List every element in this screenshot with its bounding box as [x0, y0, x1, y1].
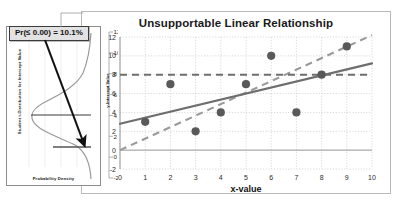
shared-intercept-axis: 12 10 8 6 4 2 0 -2 y-Intercept Value — [96, 26, 118, 186]
shared-axis-title: y-Intercept Value — [105, 51, 110, 131]
intercept-tick-label: -2 — [114, 174, 119, 181]
data-point — [192, 127, 200, 135]
x-axis-tick-labels: 0 1 2 3 4 5 6 7 8 9 10 — [118, 174, 376, 181]
intercept-tick-label: 10 — [114, 49, 119, 56]
x-tick-label: 7 — [294, 174, 298, 181]
regression-line — [120, 63, 372, 123]
x-tick-label: 1 — [143, 174, 147, 181]
intercept-tick-label: 2 — [114, 133, 118, 140]
data-point — [318, 71, 326, 79]
scatter-chart-panel: Unsupportable Linear Relationship — [81, 11, 391, 194]
shared-axis-tick-labels: 12 10 8 6 4 2 0 -2 — [114, 28, 119, 181]
x-tick-label: 4 — [219, 174, 223, 181]
grid-lines — [120, 37, 372, 169]
x-axis-title: x-value — [230, 184, 261, 194]
data-point — [141, 118, 149, 126]
x-tick-label: 10 — [368, 174, 376, 181]
x-tick-label: 3 — [194, 174, 198, 181]
scatter-plot-canvas: 12 10 8 6 4 2 0 -2 0 1 2 3 4 5 6 7 8 9 — [82, 12, 392, 195]
callout-leader-line — [61, 13, 83, 27]
x-tick-label: 0 — [118, 174, 122, 181]
data-point — [166, 80, 174, 88]
x-tick-label: 5 — [244, 174, 248, 181]
intercept-tick-label: 12 — [114, 28, 119, 35]
x-tick-label: 8 — [320, 174, 324, 181]
intercept-tick-label: 8 — [114, 70, 118, 77]
data-point — [292, 108, 300, 116]
distribution-x-axis-label: Probability Density — [7, 176, 100, 181]
data-point — [343, 42, 351, 50]
data-point — [267, 52, 275, 60]
x-tick-label: 2 — [168, 174, 172, 181]
intercept-tick-label: 6 — [114, 91, 118, 98]
distribution-panel: Student t-Distribution for Intercept Val… — [6, 26, 101, 186]
data-point — [242, 80, 250, 88]
figure-root: Unsupportable Linear Relationship — [0, 0, 396, 203]
t-distribution-curve — [32, 33, 91, 179]
probability-callout: Pr(≤ 0.00) = 10.1% — [9, 26, 89, 41]
x-tick-label: 6 — [269, 174, 273, 181]
distribution-y-axis-label: Student t-Distribution for Intercept Val… — [17, 36, 22, 148]
x-tick-label: 9 — [345, 174, 349, 181]
intercept-tick-label: 4 — [114, 112, 118, 119]
intercept-tick-label: 0 — [114, 153, 118, 160]
data-point — [217, 108, 225, 116]
